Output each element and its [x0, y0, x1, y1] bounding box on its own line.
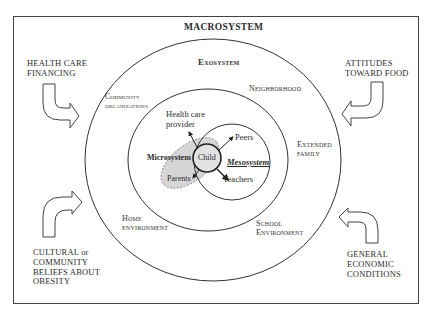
health-care-provider-label: Health care provider	[166, 110, 205, 130]
health-care-financing-line2: FINANCING	[27, 69, 87, 79]
curved-arrow-cultural-beliefs	[43, 191, 82, 237]
microsystem-label: Microsystem	[147, 153, 191, 162]
school-environment-label: School Environment	[256, 219, 303, 237]
extended-line2: family	[297, 149, 332, 158]
attitudes-line2: TOWARD FOOD	[345, 69, 409, 79]
health-care-financing-label: HEALTH CARE FINANCING	[27, 59, 87, 79]
home-environment-label: Home environment	[122, 214, 168, 232]
child-label: Child	[198, 153, 216, 162]
community-line2: organizations	[105, 102, 148, 111]
home-line2: environment	[122, 223, 168, 232]
community-organizations-label: Community organizations	[105, 93, 148, 110]
cultural-beliefs-label: CULTURAL or COMMUNITY BELIEFS ABOUT OBES…	[33, 248, 100, 287]
peers-label: Peers	[235, 133, 253, 143]
curved-arrow-attitudes-toward-food	[342, 82, 383, 126]
macrosystem-title: MACROSYSTEM	[184, 22, 263, 33]
health-provider-line2: provider	[166, 120, 205, 130]
school-line2: Environment	[256, 228, 303, 237]
curved-arrow-economic-conditions	[339, 208, 378, 243]
mesosystem-label: Mesosystem	[227, 158, 269, 168]
extended-family-label: Extended family	[297, 140, 332, 158]
home-line1: Home	[122, 214, 168, 223]
neighborhood-label: Neighborhood	[249, 84, 301, 93]
cultural-line4: OBESITY	[33, 277, 100, 287]
teachers-label: Teachers	[223, 175, 253, 185]
extended-line1: Extended	[297, 140, 332, 149]
school-line1: School	[256, 219, 303, 228]
economic-conditions-label: GENERAL ECONOMIC CONDITIONS	[347, 250, 401, 279]
attitudes-toward-food-label: ATTITUDES TOWARD FOOD	[345, 59, 409, 79]
curved-arrow-health-care-financing	[43, 84, 79, 128]
economic-line3: CONDITIONS	[347, 270, 401, 280]
parents-label: Parents	[167, 174, 191, 183]
exosystem-label: Exosystem	[198, 57, 239, 67]
arrow-to-peers	[219, 137, 233, 150]
